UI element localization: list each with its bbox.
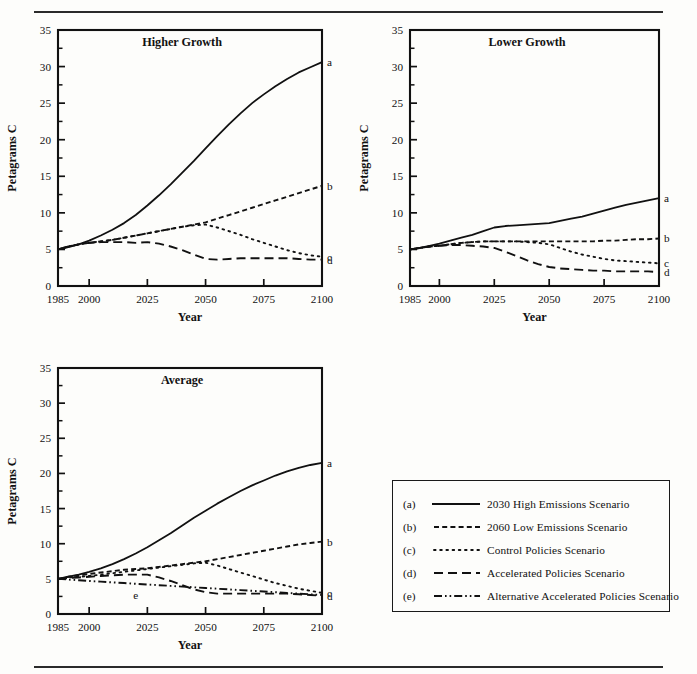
panel-title: Average <box>161 373 204 387</box>
series-line-e <box>58 579 322 595</box>
y-tick-label: 5 <box>45 573 51 585</box>
y-tick-label: 0 <box>45 608 51 620</box>
x-tick-label: 2075 <box>253 293 276 305</box>
y-tick-label: 0 <box>397 280 403 292</box>
y-tick-label: 10 <box>40 538 52 550</box>
y-tick-label: 15 <box>392 170 404 182</box>
series-end-label-b: b <box>327 536 333 548</box>
panel-title: Higher Growth <box>142 35 222 49</box>
y-tick-label: 20 <box>40 134 52 146</box>
series-line-d <box>410 245 659 272</box>
series-end-label-d: d <box>664 266 670 278</box>
y-axis-label: Petagrams C <box>357 124 371 191</box>
chart-svg-higher: 05101520253035198520002025205020752100Ye… <box>0 18 360 338</box>
y-tick-label: 30 <box>40 397 52 409</box>
x-tick-label: 1985 <box>47 621 70 633</box>
y-tick-label: 35 <box>40 362 52 374</box>
legend-row: (b)2060 Low Emissions Scenario <box>403 515 661 538</box>
y-axis-label: Petagrams C <box>5 457 19 524</box>
y-tick-label: 0 <box>45 280 51 292</box>
series-line-b <box>58 542 322 579</box>
chart-svg-lower: 05101520253035198520002025205020752100Ye… <box>352 18 697 338</box>
series-end-label-a: a <box>327 457 332 469</box>
y-tick-label: 20 <box>392 134 404 146</box>
y-tick-label: 25 <box>392 97 404 109</box>
chart-panel-lower-growth: 05101520253035198520002025205020752100Ye… <box>352 18 697 338</box>
legend-key: (b) <box>403 521 430 533</box>
legend-line-sample-dashed-long <box>430 567 482 579</box>
series-line-b <box>58 186 322 250</box>
y-tick-label: 35 <box>40 24 52 36</box>
legend-line-sample-dotted <box>430 544 482 556</box>
plot-frame <box>410 30 659 286</box>
y-axis-ticks: 05101520253035 <box>40 24 65 292</box>
x-axis-ticks: 198520002025205020752100 <box>47 279 334 305</box>
top-divider-rule <box>34 11 663 13</box>
x-tick-label: 1985 <box>399 293 422 305</box>
series-end-label-b: b <box>327 180 333 192</box>
y-tick-label: 20 <box>40 467 52 479</box>
x-tick-label: 2000 <box>78 621 101 633</box>
legend-row: (c)Control Policies Scenario <box>403 538 661 561</box>
chart-panel-higher-growth: 05101520253035198520002025205020752100Ye… <box>0 18 360 338</box>
x-tick-label: 2075 <box>593 293 616 305</box>
plot-frame <box>58 30 322 286</box>
x-tick-label: 2100 <box>648 293 671 305</box>
x-axis-label: Year <box>178 310 203 324</box>
series-end-label-a: a <box>664 192 669 204</box>
x-tick-label: 1985 <box>47 293 70 305</box>
legend-key: (c) <box>403 544 430 556</box>
y-tick-label: 25 <box>40 97 52 109</box>
y-tick-label: 5 <box>397 243 403 255</box>
legend-row: (a)2030 High Emissions Scenario <box>403 492 661 515</box>
y-tick-label: 10 <box>40 207 52 219</box>
y-tick-label: 35 <box>392 24 404 36</box>
y-tick-label: 10 <box>392 207 404 219</box>
legend-line-sample-solid <box>430 498 482 510</box>
x-axis-label: Year <box>522 310 547 324</box>
x-axis-ticks: 198520002025205020752100 <box>47 607 334 633</box>
x-tick-label: 2050 <box>194 621 217 633</box>
series-line-c <box>410 241 659 263</box>
legend-label: Control Policies Scenario <box>487 544 605 556</box>
legend-row: (e)Alternative Accelerated Policies Scen… <box>403 584 661 607</box>
series-end-label-d: d <box>327 590 333 602</box>
y-tick-label: 15 <box>40 170 52 182</box>
series-line-a <box>58 463 322 579</box>
y-axis-label: Petagrams C <box>5 124 19 191</box>
y-tick-label: 25 <box>40 432 52 444</box>
series-group <box>410 198 659 272</box>
series-end-label-a: a <box>327 56 332 68</box>
legend-label: 2030 High Emissions Scenario <box>487 498 629 510</box>
legend-line-sample-dashed-short <box>430 521 482 533</box>
legend-key: (e) <box>403 590 430 602</box>
legend-key: (d) <box>403 567 430 579</box>
x-axis-ticks: 198520002025205020752100 <box>399 279 671 305</box>
y-tick-label: 30 <box>392 61 404 73</box>
legend-label: Alternative Accelerated Policies Scenari… <box>487 590 679 602</box>
x-tick-label: 2100 <box>311 293 334 305</box>
series-group <box>58 62 322 259</box>
series-group <box>58 463 322 596</box>
bottom-divider-rule <box>34 666 663 668</box>
legend-line-sample-dash-dot-dot <box>430 590 482 602</box>
chart-panel-average: 05101520253035198520002025205020752100Ye… <box>0 356 360 666</box>
y-tick-label: 30 <box>40 61 52 73</box>
x-axis-label: Year <box>178 638 203 652</box>
series-inline-label-e: e <box>133 589 138 601</box>
x-tick-label: 2000 <box>428 293 451 305</box>
y-tick-label: 5 <box>45 243 51 255</box>
series-line-a <box>58 62 322 249</box>
series-line-c <box>58 225 322 257</box>
legend-box: (a)2030 High Emissions Scenario(b)2060 L… <box>392 480 670 612</box>
x-tick-label: 2000 <box>78 293 101 305</box>
x-tick-label: 2025 <box>136 621 159 633</box>
legend-key: (a) <box>403 498 430 510</box>
series-end-label-d: d <box>327 254 333 266</box>
x-tick-label: 2100 <box>311 621 334 633</box>
series-end-label-b: b <box>664 232 670 244</box>
y-axis-ticks: 05101520253035 <box>392 24 417 292</box>
x-tick-label: 2050 <box>194 293 217 305</box>
x-tick-label: 2050 <box>538 293 561 305</box>
panel-title: Lower Growth <box>488 35 565 49</box>
